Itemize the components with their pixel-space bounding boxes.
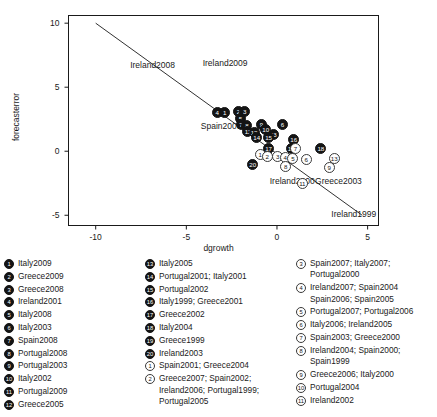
legend-item-label: Ireland2001 (18, 296, 62, 307)
legend-item[interactable]: 12Greece2005 (4, 399, 134, 410)
legend-item[interactable]: 6Italy2006; Ireland2005 (296, 319, 437, 330)
legend-item-label: Spain2003; Greece2000 (310, 332, 400, 343)
legend-item-label: Spain2008 (18, 335, 58, 346)
legend-item[interactable]: 2Greece2007; Spain2002; Ireland2006; Por… (145, 373, 293, 407)
legend-item[interactable]: 20Ireland2003 (145, 348, 293, 359)
legend-item-label: Italy2009 (18, 258, 52, 269)
legend-item[interactable]: 10Italy2002 (4, 373, 134, 384)
legend-item[interactable]: 3Spain2007; Italy2007; Portugal2000 (296, 258, 437, 281)
x-tick-label: -5 (171, 232, 201, 242)
legend-item-label: Portugal2003 (18, 360, 67, 371)
legend-marker-icon: 1 (4, 259, 14, 269)
scatter-figure: dgrowth forecasterror -10-505-50510 Irel… (0, 0, 437, 258)
legend-marker-icon: 9 (4, 361, 14, 371)
legend-marker-icon: 15 (145, 285, 155, 295)
legend-item[interactable]: 9Greece2006; Italy2000 (296, 369, 437, 380)
plot-annotation: Ireland2000 (270, 176, 315, 186)
legend-item[interactable]: 1Italy2009 (4, 258, 134, 269)
legend-item[interactable]: 11Portugal2009 (4, 386, 134, 397)
legend-item-label: Greece2009 (18, 271, 64, 282)
legend-item[interactable]: 16Italy1999; Greece2001 (145, 296, 293, 307)
x-tick-label: 5 (353, 232, 383, 242)
legend-marker-icon: 10 (296, 383, 306, 393)
legend-item[interactable]: 1Spain2001; Greece2004 (145, 360, 293, 371)
legend-item[interactable]: 2Greece2009 (4, 271, 134, 282)
legend-marker-icon: 18 (145, 323, 155, 333)
legend-marker-icon: 5 (4, 310, 14, 320)
legend-item[interactable]: 3Greece2008 (4, 284, 134, 295)
y-tick-label: -5 (36, 210, 60, 220)
legend-marker-icon: 19 (145, 336, 155, 346)
legend-item-label: Italy2004 (159, 322, 193, 333)
legend-item[interactable]: 8Portugal2008 (4, 348, 134, 359)
legend-marker-icon: 11 (4, 387, 14, 397)
legend-marker-icon: 13 (145, 259, 155, 269)
plot-annotation: Ireland2009 (203, 58, 248, 68)
legend-item[interactable]: 17Greece2002 (145, 309, 293, 320)
y-tick-label: 5 (36, 82, 60, 92)
legend-column-1: 1Italy20092Greece20093Greece20084Ireland… (4, 258, 134, 412)
legend-item[interactable]: 18Italy2004 (145, 322, 293, 333)
x-tick-label: -10 (81, 232, 111, 242)
regression-line (96, 23, 362, 215)
data-point-marker[interactable]: 6 (277, 119, 288, 130)
legend-column-3: 3Spain2007; Italy2007; Portugal20004Irel… (296, 258, 437, 407)
x-axis-title: dgrowth (0, 243, 437, 253)
legend-item[interactable]: 4Ireland2007; Spain2004 Spain2006; Spain… (296, 282, 437, 305)
legend-item[interactable]: 6Italy2003 (4, 322, 134, 333)
legend-item[interactable]: 5Portugal2007; Portugal2006 (296, 306, 437, 317)
legend-marker-icon: 3 (296, 259, 306, 269)
legend-item-label: Greece2002 (159, 309, 205, 320)
legend-item-label: Italy2002 (18, 373, 52, 384)
legend-item[interactable]: 14Portugal2001; Italy2001 (145, 271, 293, 282)
legend-marker-icon: 9 (296, 370, 306, 380)
data-point-marker[interactable]: 14 (251, 132, 262, 143)
legend-item-label: Portugal2004 (310, 382, 359, 393)
legend-marker-icon: 7 (4, 336, 14, 346)
data-point-marker[interactable]: 11 (297, 178, 308, 189)
legend-marker-icon: 2 (145, 374, 155, 384)
data-point-marker[interactable]: 8 (280, 161, 291, 172)
legend-item-label: Greece2007; Spain2002; Ireland2006; Port… (159, 373, 293, 407)
legend-item-label: Portugal2008 (18, 348, 67, 359)
legend-item-label: Greece2005 (18, 399, 64, 410)
legend-item[interactable]: 19Greece1999 (145, 335, 293, 346)
legend-item-label: Ireland2004; Spain2000; Spain1999 (310, 345, 437, 368)
legend-item[interactable]: 10Portugal2004 (296, 382, 437, 393)
legend-item[interactable]: 9Portugal2003 (4, 360, 134, 371)
data-point-marker[interactable]: 20 (247, 159, 258, 170)
plot-annotation: Ireland1999 (331, 209, 376, 219)
legend-marker-icon: 3 (4, 285, 14, 295)
data-point-marker[interactable]: 2 (262, 151, 273, 162)
legend-marker-icon: 1 (145, 361, 155, 371)
legend-item[interactable]: 4Ireland2001 (4, 296, 134, 307)
legend-item[interactable]: 8Ireland2004; Spain2000; Spain1999 (296, 345, 437, 368)
legend-marker-icon: 17 (145, 310, 155, 320)
data-point-marker[interactable]: 9 (324, 162, 335, 173)
legend-marker-icon: 8 (4, 349, 14, 359)
legend-marker-icon: 20 (145, 349, 155, 359)
legend-item[interactable]: 15Portugal2002 (145, 284, 293, 295)
legend-column-2: 13Italy200514Portugal2001; Italy200115Po… (145, 258, 293, 409)
legend-item-label: Italy1999; Greece2001 (159, 296, 243, 307)
legend-marker-icon: 8 (296, 346, 306, 356)
legend-item[interactable]: 7Spain2008 (4, 335, 134, 346)
legend-item-label: Spain2001; Greece2004 (159, 360, 249, 371)
legend-item-label: Greece1999 (159, 335, 205, 346)
legend-item-label: Spain2007; Italy2007; Portugal2000 (310, 258, 437, 281)
legend-item-label: Portugal2007; Portugal2006 (310, 306, 413, 317)
legend-item-label: Greece2008 (18, 284, 64, 295)
legend-item[interactable]: 5Italy2008 (4, 309, 134, 320)
data-point-marker[interactable]: 6 (301, 154, 312, 165)
legend-item-label: Ireland2003 (159, 348, 203, 359)
legend-marker-icon: 6 (4, 323, 14, 333)
legend-item-label: Ireland2007; Spain2004 Spain2006; Spain2… (310, 282, 437, 305)
legend-marker-icon: 10 (4, 374, 14, 384)
legend-item-label: Ireland2002 (310, 395, 354, 406)
legend-item[interactable]: 13Italy2005 (145, 258, 293, 269)
legend-marker-icon: 16 (145, 297, 155, 307)
legend-marker-icon: 2 (4, 272, 14, 282)
legend-item[interactable]: 11Ireland2002 (296, 395, 437, 406)
legend-item[interactable]: 7Spain2003; Greece2000 (296, 332, 437, 343)
data-point-marker[interactable]: 1 (219, 107, 230, 118)
